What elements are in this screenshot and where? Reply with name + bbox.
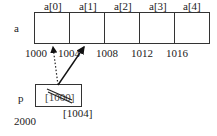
pointer-name-label: p	[18, 93, 24, 104]
pointer-new-value: [1004]	[63, 108, 92, 119]
strike-line-1	[47, 89, 72, 100]
dotted-arrow-old-target	[53, 47, 58, 85]
solid-arrow-new-target	[58, 47, 84, 85]
pointer-address-label: 2000	[14, 116, 36, 127]
strike-line-2	[48, 92, 72, 103]
